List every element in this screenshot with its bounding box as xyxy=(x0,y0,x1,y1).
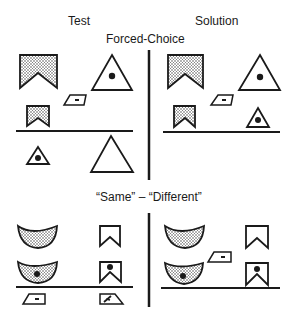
different-option-trapezoid-icon xyxy=(100,294,123,304)
stippled-crescent-icon xyxy=(18,226,57,248)
forced-choice-test-panel xyxy=(20,55,133,172)
dash-icon xyxy=(75,99,79,101)
dot-icon xyxy=(255,117,261,123)
same-different-solution-panel xyxy=(165,226,268,285)
small-stippled-banner-answer-icon xyxy=(174,106,195,127)
dot-icon xyxy=(257,74,263,80)
dot-icon xyxy=(35,155,41,161)
forced-choice-solution-panel xyxy=(168,55,280,127)
dash-icon xyxy=(35,298,39,300)
dot-icon xyxy=(107,264,113,270)
dot-icon xyxy=(254,266,260,272)
large-triangle-with-dot-icon xyxy=(92,55,132,90)
dash-icon xyxy=(222,99,226,101)
dash-icon xyxy=(221,256,225,258)
large-empty-triangle-choice-icon xyxy=(91,136,133,172)
large-triangle-with-dot-icon xyxy=(239,55,280,90)
same-different-test-panel xyxy=(18,226,123,304)
large-stippled-banner-icon xyxy=(168,55,203,88)
parallelogram-answer-icon xyxy=(208,252,231,262)
dot-icon xyxy=(34,271,40,277)
small-stippled-banner-icon xyxy=(27,106,49,126)
dot-icon xyxy=(180,273,186,279)
empty-banner-icon xyxy=(246,226,268,248)
large-stippled-banner-icon xyxy=(20,55,57,88)
empty-banner-icon xyxy=(100,226,120,246)
same-option-parallelogram-icon xyxy=(23,294,45,304)
stippled-crescent-icon xyxy=(165,226,204,248)
dot-icon xyxy=(109,73,115,79)
